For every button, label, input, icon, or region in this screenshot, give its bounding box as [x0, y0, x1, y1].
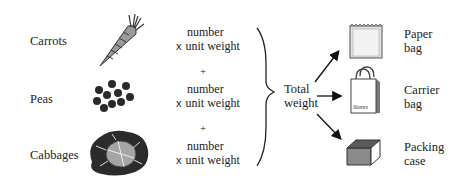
total-weight-label: Total weight	[284, 82, 318, 110]
paper-bag-line1: Paper	[404, 27, 432, 41]
label-paper-bag: Paper bag	[404, 27, 432, 55]
peas-icon	[93, 80, 134, 112]
calc-number: number	[176, 25, 240, 39]
calc-carrots: number xunit weight	[176, 25, 240, 53]
paper-bag-line2: bag	[404, 41, 432, 55]
label-cabbages: Cabbages	[30, 148, 79, 162]
carrier-bag-icon: Stores	[351, 67, 380, 113]
label-peas: Peas	[30, 92, 53, 106]
total-line1: Total	[284, 82, 318, 96]
arrow-to-paper-bag	[315, 52, 338, 82]
calc-number: number	[176, 139, 240, 153]
times-sign: x	[176, 40, 182, 52]
label-packing-case: Packing case	[404, 140, 444, 168]
packing-case-line1: Packing	[404, 140, 444, 154]
plus-sign-1: +	[200, 65, 206, 77]
label-carrier-bag: Carrier bag	[404, 83, 439, 111]
brace	[257, 28, 274, 166]
carrier-bag-line2: bag	[404, 97, 439, 111]
calc-unit-weight: unit weight	[186, 96, 240, 110]
packing-case-line2: case	[404, 154, 444, 168]
carrier-bag-text: Stores	[353, 104, 368, 110]
total-line2: weight	[284, 96, 318, 110]
calc-cabbages: number xunit weight	[176, 139, 240, 167]
carrot-icon	[100, 14, 144, 66]
calc-unit-weight: unit weight	[186, 153, 240, 167]
plus-sign-2: +	[200, 122, 206, 134]
packing-case-icon	[347, 140, 380, 165]
times-sign: x	[176, 154, 182, 166]
times-sign: x	[176, 97, 182, 109]
cabbage-icon	[90, 131, 148, 176]
calc-unit-weight: unit weight	[186, 39, 240, 53]
arrow-to-packing-case	[317, 114, 340, 138]
carrier-bag-line1: Carrier	[404, 83, 439, 97]
label-carrots: Carrots	[30, 34, 67, 48]
calc-peas: number xunit weight	[176, 82, 240, 110]
paper-bag-icon	[350, 24, 382, 58]
calc-number: number	[176, 82, 240, 96]
